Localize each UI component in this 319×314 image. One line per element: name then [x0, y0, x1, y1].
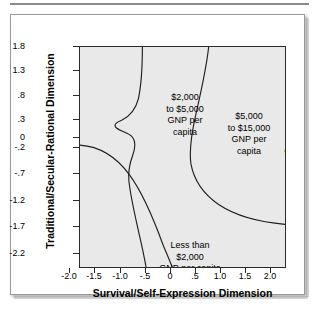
contour-boundaries — [80, 47, 285, 267]
y-tick-label-9: -1.7 — [0, 222, 25, 231]
y-tick-label-6: -.2 — [0, 143, 25, 152]
y-tick-label-7: -.7 — [0, 169, 25, 178]
plot-area: $2,000 to $5,000 GNP per capita $5,000 t… — [79, 46, 286, 268]
figure-card: Traditional/Secular-Rational Dimension 1… — [10, 14, 305, 295]
region-label-gnp-2000-5000: $2,000 to $5,000 GNP per capita — [154, 92, 216, 138]
x-tick-mark-7 — [220, 268, 221, 273]
card-shadow-right — [306, 18, 309, 297]
y-tick-label-3: .8 — [0, 91, 25, 100]
y-tick-label-8: -1.2 — [0, 196, 25, 205]
y-tick-label-10: -2.2 — [0, 249, 25, 258]
x-tick-mark-6 — [195, 268, 196, 273]
y-tick-label-5: 0 — [0, 133, 25, 142]
boundary-2000-5000-path — [115, 47, 146, 267]
y-tick-label-4: .3 — [0, 115, 25, 124]
region-label-gnp-less-2000: Less than $2,000 GNP per capita — [146, 240, 234, 268]
top-divider-rule — [10, 3, 309, 5]
x-tick-mark-9 — [270, 268, 271, 273]
x-tick-mark-2 — [94, 268, 95, 273]
y-tick-label-2: 1.3 — [0, 66, 25, 75]
region-label-gnp-more-15000: More than $15,000 GNP per capita — [276, 123, 286, 158]
x-tick-mark-3 — [120, 268, 121, 273]
y-tick-label-1: 1.8 — [0, 42, 25, 51]
region-label-gnp-5000-15000: $5,000 to $15,000 GNP per capita — [219, 111, 279, 157]
x-tick-mark-4 — [145, 268, 146, 273]
x-axis-title: Survival/Self-Expression Dimension — [55, 287, 310, 299]
x-tick-mark-8 — [245, 268, 246, 273]
x-tick-mark-5 — [170, 268, 171, 273]
y-axis-title: Traditional/Secular-Rational Dimension — [44, 36, 56, 266]
x-tick-mark-1 — [69, 268, 70, 273]
